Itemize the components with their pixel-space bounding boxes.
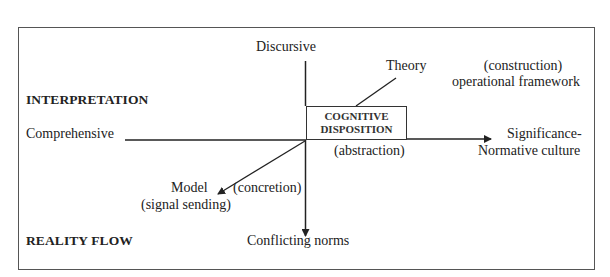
label-concretion: (concretion) <box>233 180 301 196</box>
label-comprehensive: Comprehensive <box>26 126 114 142</box>
box-line2: DISPOSITION <box>320 123 392 136</box>
label-construction: (construction) <box>468 58 578 74</box>
label-discursive: Discursive <box>256 39 316 55</box>
label-reality-flow: REALITY FLOW <box>26 233 133 249</box>
cognitive-disposition-box: COGNITIVE DISPOSITION <box>306 106 407 140</box>
label-abstraction: (abstraction) <box>334 143 405 159</box>
label-operational-framework: operational framework <box>452 74 580 90</box>
label-normative-culture: Normative culture <box>478 143 580 159</box>
theory-diagonal <box>356 78 396 106</box>
label-model: Model <box>171 180 208 196</box>
label-significance: Significance- <box>507 126 582 142</box>
label-signal-sending: (signal sending) <box>141 197 231 213</box>
label-theory: Theory <box>386 58 426 74</box>
label-interpretation: INTERPRETATION <box>26 92 148 108</box>
label-conflicting-norms: Conflicting norms <box>247 233 349 249</box>
box-line1: COGNITIVE <box>324 110 388 123</box>
